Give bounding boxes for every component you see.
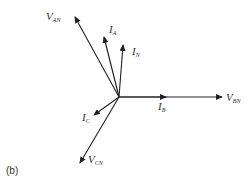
- phasor-i-c: [94, 97, 119, 115]
- label-i-c: IC: [81, 111, 91, 124]
- phasor-i-a: [104, 37, 119, 97]
- phasor-v-cn: [80, 97, 119, 163]
- label-i-a: IA: [108, 23, 117, 36]
- label-i-n: IN: [131, 45, 141, 58]
- label-i-b: IB: [157, 100, 166, 113]
- phasor-vectors: [75, 17, 222, 163]
- label-v-an: VAN: [46, 10, 61, 23]
- phasor-labels: VANIAINIBVBNICVCN: [46, 10, 241, 166]
- phasor-diagram: VANIAINIBVBNICVCN (b): [0, 0, 248, 181]
- label-v-cn: VCN: [88, 153, 104, 166]
- label-v-bn: VBN: [226, 91, 241, 104]
- figure-caption: (b): [6, 165, 18, 176]
- phasor-i-n: [119, 45, 123, 97]
